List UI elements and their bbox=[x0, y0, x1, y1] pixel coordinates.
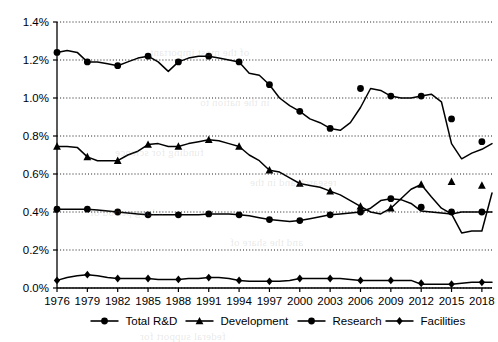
legend-label: Total R&D bbox=[126, 315, 178, 327]
data-point-marker bbox=[296, 217, 303, 224]
data-point-marker bbox=[54, 49, 61, 56]
legend-item-facilities[interactable]: Facilities bbox=[386, 315, 466, 327]
data-point-marker bbox=[266, 81, 273, 88]
data-point-marker bbox=[54, 206, 61, 213]
data-point-marker bbox=[54, 277, 60, 285]
data-point-marker bbox=[114, 209, 121, 216]
series-line bbox=[57, 140, 492, 233]
x-tick-label: 2009 bbox=[378, 295, 404, 307]
data-point-marker bbox=[205, 53, 212, 60]
y-tick-label: 0.6% bbox=[23, 168, 49, 180]
legend-marker-circle bbox=[308, 318, 315, 325]
legend-label: Facilities bbox=[421, 315, 466, 327]
data-point-marker bbox=[417, 180, 425, 187]
data-point-marker bbox=[357, 85, 364, 92]
x-tick-label: 1994 bbox=[226, 295, 252, 307]
x-tick-label: 2018 bbox=[469, 295, 495, 307]
data-point-marker bbox=[296, 108, 303, 115]
y-tick-label: 1.4% bbox=[23, 16, 49, 28]
data-point-marker bbox=[327, 275, 333, 283]
x-tick-label: 2000 bbox=[287, 295, 313, 307]
data-point-marker bbox=[84, 206, 91, 213]
x-tick-label: 1988 bbox=[166, 295, 192, 307]
data-point-marker bbox=[418, 93, 425, 100]
data-point-marker bbox=[145, 53, 152, 60]
x-tick-label: 1985 bbox=[135, 295, 161, 307]
legend-label: Research bbox=[333, 315, 382, 327]
data-point-marker bbox=[418, 204, 425, 211]
data-point-marker bbox=[236, 59, 243, 66]
data-point-marker bbox=[327, 125, 334, 132]
data-point-marker bbox=[387, 93, 394, 100]
x-tick-label: 2006 bbox=[348, 295, 374, 307]
series-total-r-d bbox=[54, 49, 492, 159]
data-point-marker bbox=[388, 277, 394, 285]
x-tick-label: 1976 bbox=[44, 295, 70, 307]
data-point-marker bbox=[115, 275, 121, 283]
series-line bbox=[57, 275, 492, 285]
series-line bbox=[57, 199, 492, 222]
x-tick-label: 2003 bbox=[317, 295, 343, 307]
data-point-marker bbox=[175, 59, 182, 66]
data-point-marker bbox=[236, 277, 242, 285]
data-point-marker bbox=[205, 211, 212, 218]
y-tick-label: 0.2% bbox=[23, 244, 49, 256]
x-tick-label: 1997 bbox=[257, 295, 283, 307]
legend-item-development[interactable]: Development bbox=[186, 315, 290, 327]
x-tick-label: 2015 bbox=[439, 295, 465, 307]
data-point-marker bbox=[357, 209, 364, 216]
data-point-marker bbox=[478, 181, 486, 188]
data-point-marker bbox=[448, 116, 455, 123]
series-research bbox=[54, 195, 492, 224]
data-point-marker bbox=[236, 211, 243, 218]
data-point-marker bbox=[175, 276, 181, 284]
data-point-marker bbox=[387, 195, 394, 202]
y-tick-label: 1.2% bbox=[23, 54, 49, 66]
data-point-marker bbox=[478, 209, 485, 216]
x-tick-label: 1979 bbox=[75, 295, 101, 307]
legend-item-research[interactable]: Research bbox=[298, 315, 382, 327]
data-point-marker bbox=[478, 138, 485, 145]
series-line bbox=[57, 51, 492, 159]
legend-marker-circle bbox=[101, 318, 108, 325]
data-point-marker bbox=[296, 179, 304, 186]
x-tick-label: 2012 bbox=[408, 295, 434, 307]
x-axis-ticks: 1976197919821985198819911994199720002003… bbox=[44, 288, 494, 307]
legend-label: Development bbox=[221, 315, 290, 327]
legend-marker-diamond bbox=[396, 317, 402, 325]
y-tick-label: 0.8% bbox=[23, 130, 49, 142]
data-point-marker bbox=[357, 202, 365, 209]
data-point-marker bbox=[266, 277, 272, 285]
data-point-marker bbox=[84, 271, 90, 279]
gridlines bbox=[57, 22, 492, 288]
x-tick-label: 1982 bbox=[105, 295, 131, 307]
data-point-marker bbox=[145, 275, 151, 283]
data-point-marker bbox=[84, 59, 91, 66]
x-tick-label: 1991 bbox=[196, 295, 222, 307]
series-facilities bbox=[54, 271, 492, 288]
data-point-marker bbox=[448, 209, 455, 216]
data-point-marker bbox=[448, 178, 456, 185]
data-point-marker bbox=[448, 280, 454, 288]
data-point-marker bbox=[175, 211, 182, 218]
y-tick-label: 0.0% bbox=[23, 282, 49, 294]
chart-legend: Total R&DDevelopmentResearchFacilities bbox=[91, 315, 466, 327]
data-point-marker bbox=[327, 211, 334, 218]
y-axis-ticks: 0.0%0.2%0.4%0.6%0.8%1.0%1.2%1.4% bbox=[23, 16, 57, 294]
data-point-marker bbox=[479, 278, 485, 286]
y-tick-label: 0.4% bbox=[23, 206, 49, 218]
data-point-marker bbox=[266, 216, 273, 223]
data-point-marker bbox=[357, 277, 363, 285]
data-point-marker bbox=[418, 279, 424, 287]
data-point-marker bbox=[297, 275, 303, 283]
data-point-marker bbox=[206, 274, 212, 282]
data-point-marker bbox=[145, 211, 152, 218]
y-tick-label: 1.0% bbox=[23, 92, 49, 104]
data-point-marker bbox=[114, 62, 121, 69]
axes bbox=[57, 22, 492, 288]
legend-item-total-r-d[interactable]: Total R&D bbox=[91, 315, 178, 327]
